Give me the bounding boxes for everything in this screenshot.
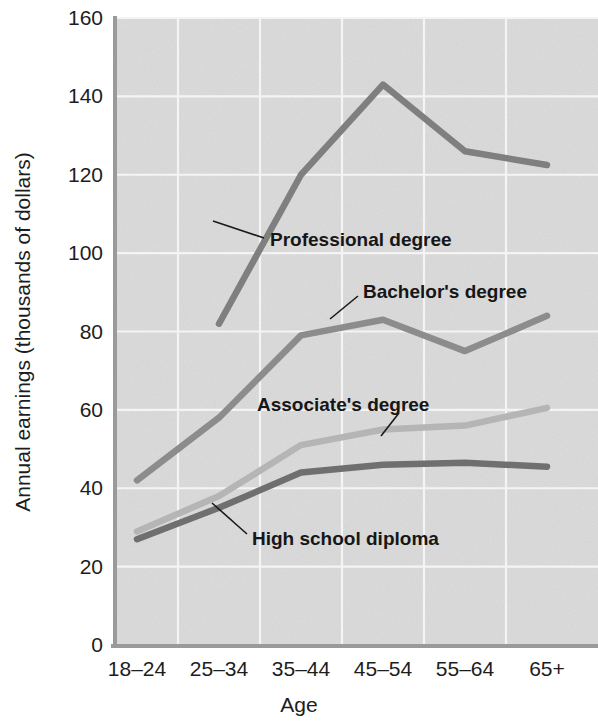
y-tick-label-160: 160	[68, 6, 103, 29]
series-label-professional: Professional degree	[270, 229, 452, 250]
y-tick-label-40: 40	[80, 476, 103, 499]
x-axis-tick-labels: 18–2425–3435–4445–5455–6465+	[108, 657, 565, 680]
series-label-highschool: High school diploma	[252, 528, 439, 549]
x-axis-title: Age	[280, 693, 317, 716]
x-tick-label-0: 18–24	[108, 657, 167, 680]
y-tick-label-120: 120	[68, 163, 103, 186]
chart-container: 020406080100120140160 18–2425–3435–4445–…	[0, 0, 598, 723]
x-tick-label-5: 65+	[529, 657, 565, 680]
x-tick-label-2: 35–44	[272, 657, 331, 680]
y-tick-label-60: 60	[80, 398, 103, 421]
series-label-associates: Associate's degree	[257, 394, 429, 415]
series-label-bachelors: Bachelor's degree	[363, 281, 527, 302]
y-tick-label-140: 140	[68, 84, 103, 107]
x-tick-label-3: 45–54	[354, 657, 413, 680]
y-tick-label-100: 100	[68, 241, 103, 264]
y-axis-title: Annual earnings (thousands of dollars)	[11, 152, 34, 512]
x-tick-label-1: 25–34	[190, 657, 249, 680]
y-tick-label-80: 80	[80, 320, 103, 343]
y-tick-label-20: 20	[80, 555, 103, 578]
line-chart: 020406080100120140160 18–2425–3435–4445–…	[0, 0, 598, 723]
x-tick-label-4: 55–64	[436, 657, 495, 680]
y-tick-label-0: 0	[91, 633, 103, 656]
y-axis-tick-labels: 020406080100120140160	[68, 6, 103, 656]
